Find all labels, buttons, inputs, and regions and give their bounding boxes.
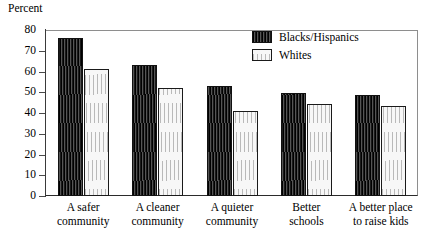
bar	[58, 38, 83, 196]
y-axis-title: Percent	[8, 2, 42, 15]
bar	[307, 104, 332, 196]
bar-chart: Percent 01020304050607080 A safercommuni…	[0, 0, 442, 244]
bar-group	[58, 30, 109, 196]
bar-group	[207, 30, 258, 196]
x-axis-label-line: to raise kids	[333, 214, 429, 228]
bar	[84, 69, 109, 196]
y-axis-tick	[39, 51, 45, 52]
y-axis-tick	[39, 175, 45, 176]
y-axis-tick-label: 40	[0, 107, 36, 119]
bar	[207, 86, 232, 196]
y-axis-tick	[39, 134, 45, 135]
bar-group	[132, 30, 183, 196]
legend-item-label: Whites	[279, 49, 312, 61]
y-axis-tick-label: 70	[0, 45, 36, 57]
y-axis-tick-label: 0	[0, 190, 36, 202]
y-axis-tick	[39, 72, 45, 73]
y-axis-tick-label: 60	[0, 66, 36, 78]
bar	[281, 93, 306, 196]
y-axis-tick-label: 20	[0, 149, 36, 161]
x-axis-label-line: A better place	[333, 200, 429, 214]
legend-item-label: Blacks/Hispanics	[279, 31, 359, 43]
y-axis-tick-label: 10	[0, 170, 36, 182]
bar	[233, 111, 258, 196]
x-axis-label: A better placeto raise kids	[333, 200, 429, 228]
bar	[355, 95, 380, 196]
legend-item: Blacks/Hispanics	[252, 30, 402, 43]
bar	[132, 65, 157, 196]
bar	[158, 88, 183, 196]
y-axis-tick	[39, 92, 45, 93]
legend-swatch-icon	[252, 31, 272, 43]
bar	[381, 106, 406, 196]
y-axis-tick-label: 30	[0, 128, 36, 140]
legend-swatch-icon	[252, 49, 272, 61]
y-axis-tick	[39, 113, 45, 114]
legend-item: Whites	[252, 48, 402, 61]
chart-legend: Blacks/HispanicsWhites	[252, 30, 402, 66]
y-axis-tick	[39, 196, 45, 197]
y-axis-tick	[39, 155, 45, 156]
y-axis-tick-label: 50	[0, 87, 36, 99]
x-axis-labels: A safercommunityA cleanercommunityA quie…	[46, 200, 418, 244]
y-axis-tick-label: 80	[0, 24, 36, 36]
